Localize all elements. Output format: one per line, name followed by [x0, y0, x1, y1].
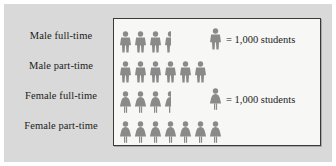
female-figure-icon — [119, 121, 132, 143]
pictogram-row — [119, 27, 171, 53]
male-figure-icon — [134, 31, 147, 53]
pictogram-row — [119, 117, 222, 143]
legend-female: = 1,000 students — [209, 88, 295, 110]
male-figure-icon — [179, 61, 192, 83]
legend-male-text: = 1,000 students — [226, 34, 295, 45]
male-figure-icon — [164, 61, 177, 83]
female-figure-icon — [149, 121, 162, 143]
row-label-male-part-time: Male part-time — [12, 60, 110, 71]
pictogram-row — [119, 57, 207, 83]
row-label-male-full-time: Male full-time — [12, 30, 110, 41]
female-figure-icon — [119, 91, 132, 113]
legend-female-text: = 1,000 students — [226, 94, 295, 105]
female-figure-icon — [179, 121, 192, 143]
female-figure-icon — [194, 121, 207, 143]
row-label-female-part-time: Female part-time — [12, 120, 110, 131]
male-figure-icon — [194, 61, 207, 83]
male-figure-icon — [119, 31, 132, 53]
male-figure-icon-half — [164, 31, 171, 53]
legend-male: = 1,000 students — [209, 28, 295, 50]
male-figure-icon — [119, 61, 132, 83]
male-figure-icon — [149, 61, 162, 83]
pictogram-row — [119, 87, 171, 113]
female-figure-icon-half — [164, 91, 171, 113]
female-figure-icon — [209, 88, 222, 110]
female-figure-icon — [209, 121, 222, 143]
pictogram-figure: Male full-time Male part-time Female ful… — [0, 0, 336, 166]
female-figure-icon — [134, 91, 147, 113]
male-figure-icon — [134, 61, 147, 83]
female-figure-icon — [149, 91, 162, 113]
female-figure-icon — [164, 121, 177, 143]
male-figure-icon — [209, 28, 222, 50]
chart-panel: = 1,000 students = 1,000 students — [113, 18, 321, 146]
row-label-column: Male full-time Male part-time Female ful… — [12, 22, 110, 146]
female-figure-icon — [134, 121, 147, 143]
row-label-female-full-time: Female full-time — [12, 90, 110, 101]
male-figure-icon — [149, 31, 162, 53]
